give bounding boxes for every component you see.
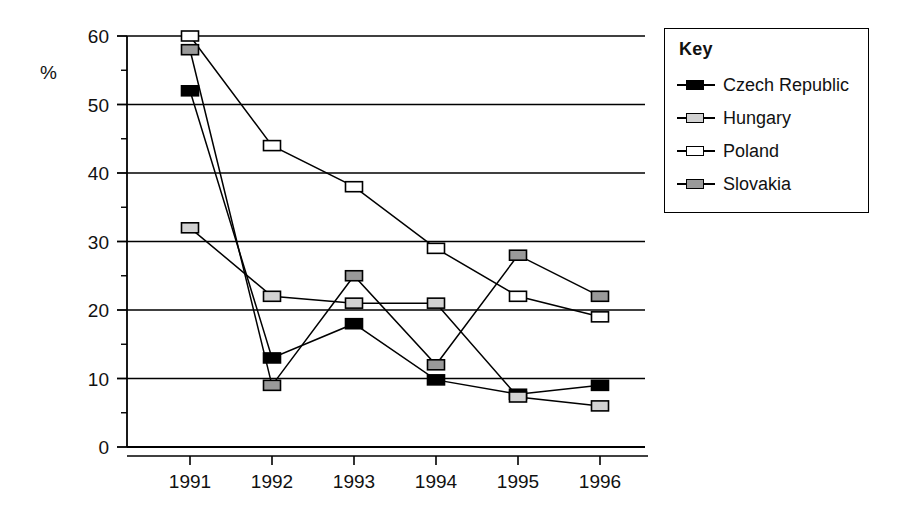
legend-marker-poland-icon	[677, 141, 715, 161]
svg-text:30: 30	[88, 232, 109, 253]
data-series-lines	[190, 36, 600, 406]
legend-label-czech-republic: Czech Republic	[723, 75, 849, 96]
legend-item-hungary[interactable]: Hungary	[677, 105, 791, 131]
svg-text:1992: 1992	[251, 471, 293, 492]
legend-label-hungary: Hungary	[723, 108, 791, 129]
legend-item-slovakia[interactable]: Slovakia	[677, 171, 791, 197]
svg-text:%: %	[40, 62, 57, 83]
chart-container: 0102030405060 199119921993199419951996 %…	[0, 0, 902, 505]
x-tick-labels: 199119921993199419951996	[169, 471, 621, 492]
legend-marker-czech-republic-icon	[677, 75, 715, 95]
svg-text:60: 60	[88, 26, 109, 47]
chart-legend: Key Czech Republic Hungary Poland Slovak…	[664, 28, 869, 213]
y-tick-labels: 0102030405060	[88, 26, 109, 458]
svg-text:40: 40	[88, 163, 109, 184]
y-axis	[117, 36, 127, 447]
svg-text:20: 20	[88, 300, 109, 321]
svg-text:0: 0	[98, 437, 109, 458]
legend-title: Key	[679, 39, 713, 60]
svg-text:1995: 1995	[497, 471, 539, 492]
legend-marker-hungary-icon	[677, 108, 715, 128]
svg-text:1993: 1993	[333, 471, 375, 492]
data-point-markers	[182, 31, 609, 411]
svg-text:1994: 1994	[415, 471, 458, 492]
legend-label-poland: Poland	[723, 141, 779, 162]
gridlines	[127, 36, 645, 447]
legend-item-czech-republic[interactable]: Czech Republic	[677, 72, 849, 98]
svg-text:50: 50	[88, 95, 109, 116]
y-axis-unit-label: %	[40, 62, 57, 83]
svg-text:1991: 1991	[169, 471, 211, 492]
svg-text:10: 10	[88, 369, 109, 390]
legend-item-poland[interactable]: Poland	[677, 138, 779, 164]
x-axis	[127, 456, 648, 465]
svg-text:1996: 1996	[579, 471, 621, 492]
legend-marker-slovakia-icon	[677, 174, 715, 194]
legend-label-slovakia: Slovakia	[723, 174, 791, 195]
